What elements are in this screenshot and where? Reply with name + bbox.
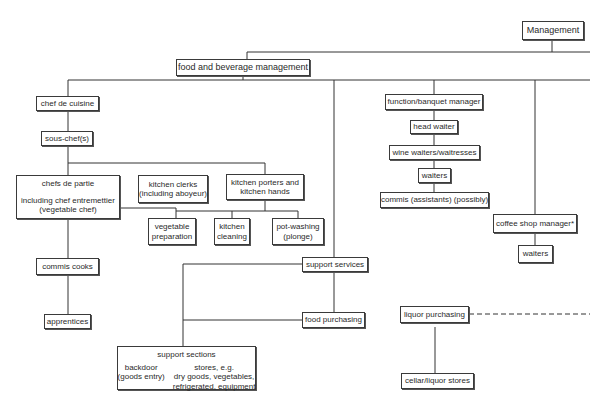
waiters-coffee-box: waiters <box>518 245 553 263</box>
function-banquet-manager-box: function/banquet manager <box>385 94 483 110</box>
management-box: Management <box>522 21 584 40</box>
stores-section: stores, e.g. dry goods, vegetables, refr… <box>173 363 256 392</box>
support-services-box: support services <box>302 257 368 272</box>
coffee-shop-manager-box: coffee shop manager* <box>493 214 577 233</box>
chefs-de-partie-box: chefs de partie including chef entremett… <box>16 175 120 219</box>
kitchen-clerks-box: kitchen clerks (including aboyeur) <box>138 175 208 203</box>
food-purchasing-box: food purchasing <box>302 312 365 328</box>
support-sections-box: support sections backdoor (goods entry) … <box>117 346 256 390</box>
food-beverage-management-box: food and beverage management <box>176 59 310 76</box>
kitchen-cleaning-box: kitchen cleaning <box>214 218 250 245</box>
commis-assistants-box: commis (assistants) (possibly) <box>380 192 489 208</box>
pot-washing-box: pot-washing (plonge) <box>272 218 324 245</box>
apprentices-box: apprentices <box>44 314 91 329</box>
kitchen-porters-box: kitchen porters and kitchen hands <box>226 174 304 200</box>
food-beverage-management-label: food and beverage management <box>178 63 308 73</box>
waiters-fb-box: waiters <box>418 168 451 183</box>
sous-chef-box: sous-chef(s) <box>41 131 93 146</box>
cellar-liquor-stores-box: cellar/liquor stores <box>401 373 474 389</box>
head-waiter-box: head waiter <box>410 120 458 134</box>
commis-cooks-box: commis cooks <box>36 258 99 275</box>
chef-de-cuisine-box: chef de cuisine <box>36 96 99 111</box>
vegetable-preparation-box: vegetable preparation <box>148 218 196 245</box>
liquor-purchasing-box: liquor purchasing <box>400 306 469 323</box>
wine-waiters-box: wine waiters/waitresses <box>389 145 480 160</box>
backdoor-section: backdoor (goods entry) <box>118 363 165 382</box>
management-label: Management <box>527 26 580 36</box>
